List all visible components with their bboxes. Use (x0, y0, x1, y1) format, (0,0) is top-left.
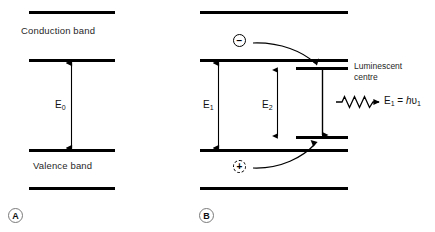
panel-b-e2-energy-subscript: 2 (269, 104, 273, 111)
panel-a-bandgap-energy-subscript: 0 (62, 104, 66, 111)
panel-a-conduction-band-label: Conduction band (21, 25, 95, 36)
luminescent-centre-label: Luminescent centre (354, 61, 402, 83)
hole-icon: + (233, 160, 246, 173)
panel-b-e1-energy-label: E1 (203, 99, 214, 111)
figure-canvas: Conduction band Valence band E0 A − + Lu… (0, 0, 435, 232)
panel-a-bandgap-energy-label: E0 (55, 99, 66, 111)
photon-emission-wave (336, 97, 379, 108)
formula-lhs-symbol: E (384, 95, 391, 106)
electron-icon: − (233, 34, 246, 47)
panel-b-e1-energy-symbol: E (203, 99, 210, 110)
formula-nu-subscript: 1 (417, 100, 421, 107)
emission-energy-formula: E1 = hυ1 (384, 95, 421, 107)
luminescent-centre-label-line2: centre (354, 72, 402, 83)
panel-b-e1-energy-subscript: 1 (210, 104, 214, 111)
panel-b-e2-energy-label: E2 (262, 99, 273, 111)
hole-capture-curve (253, 144, 315, 168)
luminescent-centre-label-line1: Luminescent (354, 61, 402, 72)
panel-a-valence-band-label: Valence band (33, 160, 92, 171)
panel-b-e2-energy-symbol: E (262, 99, 269, 110)
panel-b-group (200, 13, 379, 189)
formula-equals: = (395, 95, 406, 106)
panel-a-bandgap-energy-symbol: E (55, 99, 62, 110)
panel-tag-b: B (199, 208, 214, 223)
panel-tag-a: A (8, 208, 23, 223)
